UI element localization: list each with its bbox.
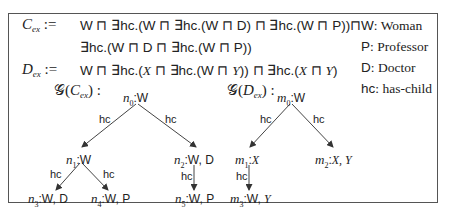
node-n2: n2:W, D <box>174 152 214 170</box>
edge-label-n1-n3: hc <box>50 168 62 180</box>
node-n3: n3:W, D <box>28 191 68 209</box>
graph-edges <box>0 0 449 218</box>
edge-m0-m1 <box>250 104 290 147</box>
node-n1: n1:W <box>66 152 91 170</box>
node-n5: n5:W, P <box>175 191 214 209</box>
edge-label-m0-m1: hc <box>260 113 272 125</box>
node-m2: m2:X, Y <box>315 152 352 170</box>
graph-d-label: 𝒢(Dex) : <box>227 82 275 100</box>
node-m3: m3:W, Y <box>230 191 271 209</box>
edge-label-m1-m3: hc <box>236 170 248 182</box>
edge-label-n2-n5: hc <box>181 170 193 182</box>
edge-n0-n1 <box>82 104 136 147</box>
node-n4: n4:W, P <box>91 191 130 209</box>
edge-m0-m2 <box>292 104 333 147</box>
node-m1: m1:X <box>235 152 259 170</box>
edge-label-n0-n2: hc <box>165 113 177 125</box>
graph-c-label: 𝒢(Cex) : <box>54 82 101 100</box>
node-m0: m0:W <box>277 90 305 108</box>
edge-label-m0-m2: hc <box>313 113 325 125</box>
edge-label-n1-n4: hc <box>103 168 115 180</box>
edge-label-n0-n1: hc <box>99 113 111 125</box>
node-n0: n0:W <box>123 90 148 108</box>
edge-n0-n2 <box>138 104 196 147</box>
